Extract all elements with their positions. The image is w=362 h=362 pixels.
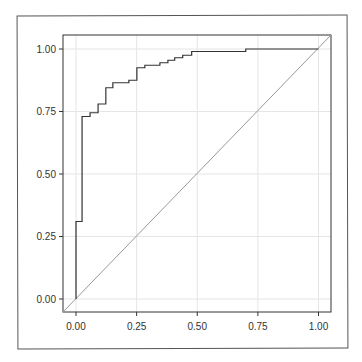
roc-chart: 0.000.250.500.751.00 0.000.250.500.751.0… <box>0 0 362 362</box>
y-tick-label: 0.00 <box>37 294 57 305</box>
y-axis-ticks: 0.000.250.500.751.00 <box>37 44 63 305</box>
y-tick-label: 1.00 <box>37 44 57 55</box>
y-tick-label: 0.50 <box>37 169 57 180</box>
x-tick-label: 0.50 <box>188 321 208 332</box>
x-tick-label: 0.75 <box>248 321 268 332</box>
x-tick-label: 1.00 <box>309 321 329 332</box>
x-axis-ticks: 0.000.250.500.751.00 <box>66 312 328 332</box>
y-tick-label: 0.25 <box>37 231 57 242</box>
y-tick-label: 0.75 <box>37 106 57 117</box>
x-tick-label: 0.25 <box>127 321 147 332</box>
x-tick-label: 0.00 <box>66 321 86 332</box>
